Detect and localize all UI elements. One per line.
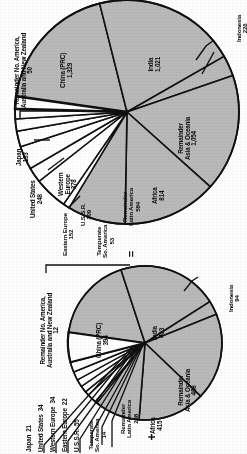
bottom-label-latin-rest: Remainder Latin America298 (120, 400, 139, 438)
top-label-temperate-samerica: Temperate So. America53 (96, 225, 115, 258)
plus-symbol: + (145, 433, 159, 440)
top-label-indonesia: Indonesia226 (236, 15, 247, 42)
bottom-label-china: China (PRC)394 (96, 323, 109, 358)
bottom-label-japan: Japan 21 (26, 425, 33, 452)
top-label-africa: Africa814 (152, 187, 165, 204)
bottom-label-indonesia: Indonesia94 (228, 285, 241, 312)
bottom-label-temperate-samerica: Temperate So. America14 (88, 419, 107, 452)
figure-canvas: China (PRC)1,329 India1,021 Indonesia226… (0, 0, 247, 454)
bottom-label-india: India403 (152, 326, 165, 340)
top-label-asia-rest: Remainder Asia & Oceania1,054 (178, 117, 198, 160)
top-label-china: China (PRC)1,329 (60, 53, 73, 88)
bottom-label-united-states: United States 34 (38, 405, 45, 452)
bottom-label-eastern-europe: Eastern Europe 22 (62, 399, 69, 452)
bottom-label-western-europe: Western Europe 34 (50, 397, 57, 452)
top-label-united-states: United States248 (30, 180, 43, 218)
bottom-label-namerica-rest: Remainder No. America, Australia and New… (40, 293, 60, 368)
top-label-japan: Japan133 (16, 149, 29, 166)
bottom-label-ussr: U.S.S.R. 55 (74, 419, 81, 452)
bottom-label-africa: Africa415 (150, 417, 163, 434)
bottom-label-asia-rest: Remainder Asia & Oceania468 (178, 369, 198, 412)
top-label-latin-rest: Remainder Latin America584 (122, 188, 141, 226)
top-label-india: India1,021 (148, 57, 161, 72)
top-label-ussr: U.S.S.R.309 (80, 204, 93, 226)
top-label-namerica-rest: Remainder No. America, Australia and New… (14, 33, 34, 108)
top-label-eastern-europe: Eastern Europe152 (62, 213, 75, 256)
top-label-western-europe: Western Europe378 (58, 173, 78, 196)
